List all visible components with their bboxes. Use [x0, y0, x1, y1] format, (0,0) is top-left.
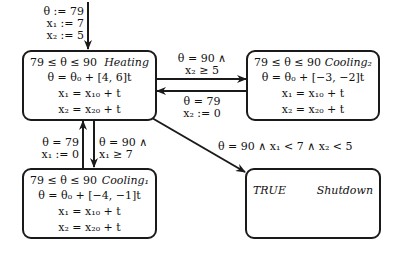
initial-line: x₂ := 5	[30, 30, 84, 42]
guard-line: x₂ := 0	[165, 108, 239, 120]
guard-cooling2-to-heating: θ = 79 x₂ := 0	[165, 96, 239, 120]
guard-heating-to-cooling2: θ = 90 ∧ x₂ ≥ 5	[165, 53, 239, 77]
flow-equation: x₂ = x₂₀ + t	[24, 221, 155, 235]
guard-cooling1-to-heating: θ = 79 x₁ := 0	[22, 137, 79, 161]
mode-name: Shutdown	[317, 184, 373, 198]
mode-cooling1: 79 ≤ θ ≤ 90 Cooling₁ θ = θ₀ + [−4, −1]t …	[22, 168, 157, 239]
flow-equation: x₂ = x₂₀ + t	[24, 103, 155, 117]
mode-invariant: 79 ≤ θ ≤ 90	[30, 174, 97, 188]
flow-equation: x₂ = x₂₀ + t	[248, 103, 378, 117]
mode-cooling2: 79 ≤ θ ≤ 90 Cooling₂ θ = θ₀ + [−3, −2]t …	[246, 50, 380, 121]
guard-line: x₁ := 0	[22, 149, 79, 161]
mode-name: Heating	[104, 56, 149, 70]
flow-equation: θ = θ₀ + [−3, −2]t	[248, 71, 378, 85]
flow-equation: x₁ = x₁₀ + t	[248, 87, 378, 101]
guard-line: θ = 90 ∧ x₁ < 7 ∧ x₂ < 5	[218, 141, 353, 153]
flow-equation: θ = θ₀ + [−4, −1]t	[24, 189, 155, 203]
mode-shutdown: TRUE Shutdown	[245, 168, 381, 239]
initial-assignments: θ := 79 x₁ := 7 x₂ := 5	[30, 6, 84, 42]
mode-name: Cooling₂	[325, 56, 372, 70]
mode-invariant: TRUE	[253, 184, 286, 198]
guard-line: x₁ ≥ 7	[99, 149, 147, 161]
mode-invariant: 79 ≤ θ ≤ 90	[30, 56, 97, 70]
guard-heating-to-shutdown: θ = 90 ∧ x₁ < 7 ∧ x₂ < 5	[218, 141, 353, 153]
mode-heating: 79 ≤ θ ≤ 90 Heating θ = θ₀ + [4, 6]t x₁ …	[22, 50, 157, 121]
guard-line: x₂ ≥ 5	[165, 65, 239, 77]
mode-invariant: 79 ≤ θ ≤ 90	[254, 56, 321, 70]
guard-heating-to-cooling1: θ = 90 ∧ x₁ ≥ 7	[99, 137, 147, 161]
flow-equation: x₁ = x₁₀ + t	[24, 87, 155, 101]
flow-equation: θ = θ₀ + [4, 6]t	[24, 71, 155, 85]
flow-equation: x₁ = x₁₀ + t	[24, 205, 155, 219]
mode-name: Cooling₁	[102, 174, 149, 188]
